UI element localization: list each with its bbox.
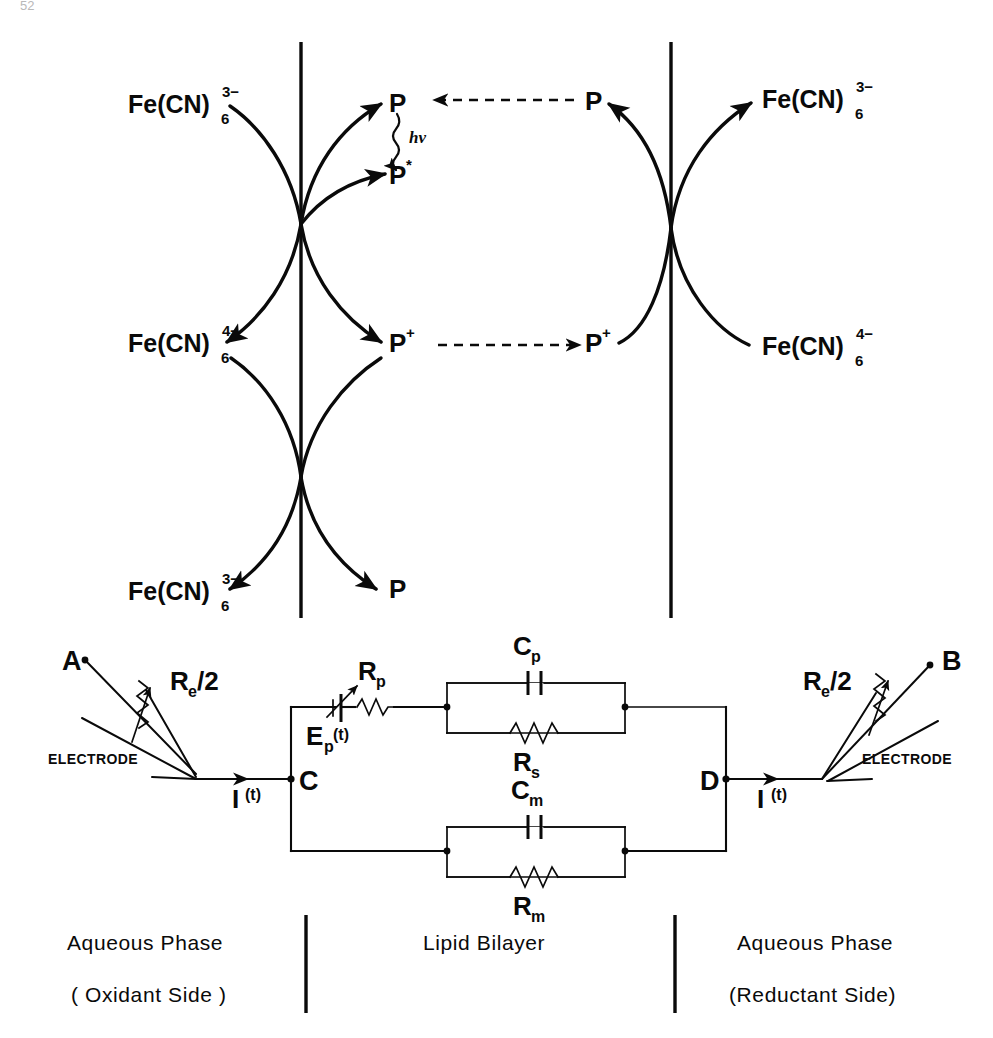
species-superscript: 3− bbox=[222, 83, 239, 100]
species-base: Fe(CN) bbox=[762, 332, 844, 360]
terminal-b-label: B bbox=[942, 646, 962, 676]
page-number: 52 bbox=[20, 0, 34, 13]
species-fecn6-3minus-upper-left: Fe(CN) 3− 6 bbox=[128, 83, 239, 127]
species-p-inner-upper: P bbox=[389, 88, 406, 118]
emf-superscript: (t) bbox=[333, 726, 349, 743]
node-c-label: C bbox=[299, 766, 319, 796]
species-fecn6-3minus-upper-right: Fe(CN) 3− 6 bbox=[762, 78, 873, 122]
species-p-plus-inner: P + bbox=[389, 324, 415, 358]
resistance-subscript: p bbox=[376, 673, 386, 690]
resistance-suffix: /2 bbox=[197, 666, 219, 696]
species-base: Fe(CN) bbox=[128, 90, 210, 118]
species-base: P bbox=[585, 86, 602, 116]
caption-line-2: (Reductant Side) bbox=[729, 983, 896, 1006]
species-superscript: 3− bbox=[222, 570, 239, 587]
resistor-base: R bbox=[513, 747, 532, 777]
resistance-base: R bbox=[170, 666, 189, 696]
caption-center: Lipid Bilayer bbox=[423, 931, 545, 954]
species-superscript: + bbox=[406, 324, 415, 341]
species-fecn6-4minus-right: Fe(CN) 4− 6 bbox=[762, 325, 873, 369]
caption-right: Aqueous Phase (Reductant Side) bbox=[729, 931, 896, 1006]
electrode-resistance-left-label: R e /2 bbox=[170, 666, 219, 700]
species-base: Fe(CN) bbox=[128, 329, 210, 357]
resistance-subscript: e bbox=[821, 683, 830, 700]
photo-emf-label: E p (t) bbox=[306, 721, 349, 755]
current-base: I bbox=[757, 784, 764, 814]
species-subscript: 6 bbox=[855, 105, 863, 122]
current-left-label: I (t) bbox=[232, 784, 261, 814]
resistor-rm-label: R m bbox=[513, 891, 545, 925]
current-superscript: (t) bbox=[771, 786, 787, 803]
resistance-base: R bbox=[358, 656, 377, 686]
resistance-subscript: e bbox=[188, 683, 197, 700]
species-superscript: 4− bbox=[222, 322, 239, 339]
capacitor-base: C bbox=[513, 631, 532, 661]
electrode-right-label: ELECTRODE bbox=[862, 751, 952, 767]
species-p-outer-upper: P bbox=[585, 86, 602, 116]
species-base: P bbox=[389, 88, 406, 118]
photo-resistance-label: R p bbox=[358, 656, 386, 690]
species-subscript: 6 bbox=[221, 110, 229, 127]
species-p-excited: P * bbox=[389, 156, 412, 190]
caption-line-1: Aqueous Phase bbox=[737, 931, 893, 954]
species-subscript: 6 bbox=[221, 597, 229, 614]
species-superscript: 4− bbox=[856, 325, 873, 342]
caption-left: Aqueous Phase ( Oxidant Side ) bbox=[67, 931, 227, 1006]
current-superscript: (t) bbox=[245, 786, 261, 803]
figure-root: 52 Fe(CN) 3− 6 P hν P * P Fe(CN) 3− 6 bbox=[0, 0, 993, 1038]
species-subscript: 6 bbox=[221, 349, 229, 366]
current-base: I bbox=[232, 784, 239, 814]
species-fecn6-4minus-left: Fe(CN) 4− 6 bbox=[128, 322, 239, 366]
emf-base: E bbox=[306, 721, 323, 751]
species-superscript: + bbox=[602, 324, 611, 341]
excitation-label: hν bbox=[409, 128, 426, 147]
species-base: P bbox=[585, 328, 602, 358]
resistor-subscript: s bbox=[531, 764, 540, 781]
capacitor-subscript: m bbox=[529, 792, 543, 809]
resistance-suffix: /2 bbox=[830, 666, 852, 696]
species-p-lower: P bbox=[389, 574, 406, 604]
electrode-resistance-right-label: R e /2 bbox=[803, 666, 852, 700]
caption-line-2: ( Oxidant Side ) bbox=[71, 983, 227, 1006]
species-superscript: 3− bbox=[856, 78, 873, 95]
species-superscript: * bbox=[406, 156, 412, 173]
figure-text-layer: 52 Fe(CN) 3− 6 P hν P * P Fe(CN) 3− 6 bbox=[0, 0, 993, 1038]
terminal-a-label: A bbox=[62, 646, 82, 676]
species-base: P bbox=[389, 160, 406, 190]
species-base: P bbox=[389, 574, 406, 604]
node-d-label: D bbox=[700, 766, 720, 796]
caption-line-1: Lipid Bilayer bbox=[423, 931, 545, 954]
caption-line-1: Aqueous Phase bbox=[67, 931, 223, 954]
electrode-left-label: ELECTRODE bbox=[48, 751, 138, 767]
capacitor-subscript: p bbox=[531, 648, 541, 665]
capacitor-base: C bbox=[511, 775, 530, 805]
species-base: P bbox=[389, 328, 406, 358]
current-right-label: I (t) bbox=[757, 784, 787, 814]
resistance-base: R bbox=[803, 666, 822, 696]
species-p-plus-outer: P + bbox=[585, 324, 611, 358]
species-base: Fe(CN) bbox=[762, 85, 844, 113]
species-subscript: 6 bbox=[855, 352, 863, 369]
capacitor-cp-label: C p bbox=[513, 631, 541, 665]
species-base: Fe(CN) bbox=[128, 577, 210, 605]
species-fecn6-3minus-lower-left: Fe(CN) 3− 6 bbox=[128, 570, 239, 614]
resistor-base: R bbox=[513, 891, 532, 921]
resistor-subscript: m bbox=[531, 908, 545, 925]
